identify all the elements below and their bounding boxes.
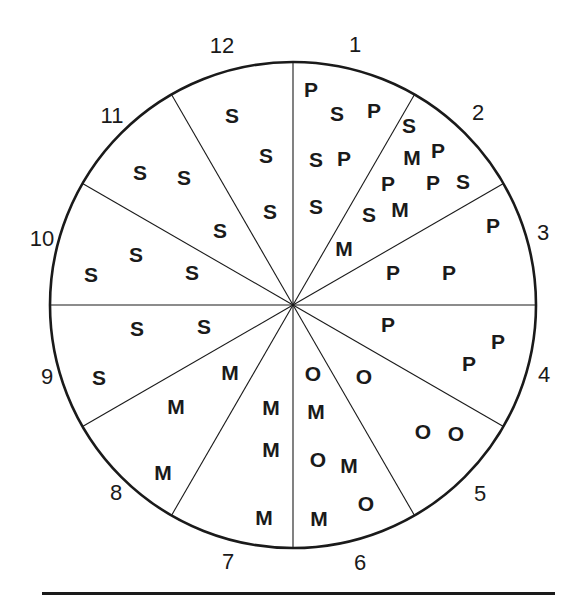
sector-letter: S xyxy=(402,115,416,136)
sector-letter: P xyxy=(367,100,381,121)
hour-label-8: 8 xyxy=(110,482,122,504)
sector-letter: M xyxy=(154,462,172,483)
sector-letter: S xyxy=(362,204,376,225)
sector-letter: S xyxy=(213,220,227,241)
sector-letter: P xyxy=(442,262,456,283)
sector-letter: S xyxy=(177,167,191,188)
sector-letter: P xyxy=(337,148,351,169)
sector-letter: O xyxy=(358,493,374,514)
sector-letter: S xyxy=(456,171,470,192)
sector-letter: M xyxy=(335,238,353,259)
hour-label-12: 12 xyxy=(210,35,234,57)
sector-letter: O xyxy=(448,423,464,444)
sector-letter: S xyxy=(197,316,211,337)
hour-label-2: 2 xyxy=(472,102,484,124)
sector-letter: P xyxy=(386,262,400,283)
sector-letter: M xyxy=(167,396,185,417)
sector-letter: M xyxy=(403,147,421,168)
hour-label-6: 6 xyxy=(354,552,366,574)
sector-letter: O xyxy=(356,366,372,387)
sector-letter: O xyxy=(415,421,431,442)
sector-letter: M xyxy=(391,199,409,220)
sector-letter: M xyxy=(340,455,358,476)
hour-label-3: 3 xyxy=(537,222,549,244)
sector-letter: S xyxy=(309,196,323,217)
sector-letter: M xyxy=(221,362,239,383)
hour-label-10: 10 xyxy=(30,228,54,250)
sector-letter: P xyxy=(491,331,505,352)
sector-letter: P xyxy=(304,79,318,100)
sector-letter: M xyxy=(310,508,328,529)
sector-letter: M xyxy=(255,507,273,528)
sector-letter: M xyxy=(307,401,325,422)
sector-letter: S xyxy=(225,105,239,126)
sector-letter: S xyxy=(185,262,199,283)
sector-letter: P xyxy=(486,215,500,236)
sector-letter: P xyxy=(381,173,395,194)
hour-label-4: 4 xyxy=(538,364,550,386)
sector-letter: S xyxy=(130,318,144,339)
sector-letter: M xyxy=(262,397,280,418)
sector-letter: S xyxy=(330,103,344,124)
sector-letter: P xyxy=(431,140,445,161)
sector-letter: M xyxy=(262,439,280,460)
hour-label-9: 9 xyxy=(41,366,53,388)
hour-label-7: 7 xyxy=(222,551,234,573)
wheel-graphic xyxy=(0,0,571,603)
sector-letter: O xyxy=(305,363,321,384)
clock-sector-diagram: PSPSSPMPPPSSSMPMPPPPPOOOOMMOMOMMMMMMSSSS… xyxy=(0,0,571,603)
sector-letter: S xyxy=(129,244,143,265)
sector-letter: S xyxy=(133,162,147,183)
hour-label-11: 11 xyxy=(101,105,124,127)
sector-letter: S xyxy=(92,367,106,388)
sector-letter: O xyxy=(310,449,326,470)
sector-letter: P xyxy=(381,314,395,335)
hour-label-5: 5 xyxy=(474,483,486,505)
sector-letter: P xyxy=(462,353,476,374)
sector-letter: S xyxy=(309,149,323,170)
bottom-rule xyxy=(42,592,555,595)
sector-letter: P xyxy=(426,172,440,193)
sector-letter: S xyxy=(84,264,98,285)
sector-letter: S xyxy=(259,145,273,166)
hour-label-1: 1 xyxy=(349,34,361,56)
sector-letter: S xyxy=(263,201,277,222)
